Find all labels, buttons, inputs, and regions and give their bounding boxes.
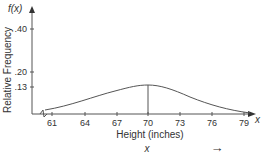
normal-distribution-chart: f(x) .40 .20 .13 Relative Frequency x 61… — [0, 0, 263, 157]
footer-symbol: x — [144, 143, 151, 154]
y-axis-symbol: f(x) — [8, 3, 22, 14]
x-tick-label: 70 — [143, 118, 153, 128]
x-tick-label: 73 — [175, 118, 185, 128]
x-tick-label: 61 — [47, 118, 57, 128]
y-tick-label: .40 — [14, 24, 27, 34]
x-tick-label: 64 — [80, 118, 90, 128]
right-arrow-icon: → — [211, 140, 224, 155]
x-tick-label: 67 — [112, 118, 122, 128]
x-axis-symbol: x — [254, 114, 261, 125]
y-tick-label: .13 — [14, 82, 27, 92]
x-axis-label: Height (inches) — [116, 129, 183, 140]
y-axis-arrow-icon — [29, 6, 35, 13]
x-tick-label: 76 — [207, 118, 217, 128]
y-tick-label: .20 — [14, 67, 27, 77]
y-axis-label: Relative Frequency — [2, 27, 13, 113]
x-tick-label: 79 — [239, 118, 249, 128]
